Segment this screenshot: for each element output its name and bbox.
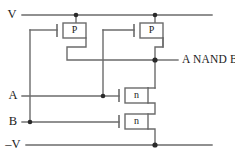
output-label: A NAND B <box>182 53 235 65</box>
junction-input-a-tap <box>101 94 106 99</box>
pmos-left-group: P <box>30 15 155 60</box>
input-b-label: B <box>9 114 17 128</box>
junction-vdd-left-tap <box>74 13 79 18</box>
pmos-right-label: P <box>149 24 155 35</box>
nmos-lower-source-wire <box>148 129 155 145</box>
output-net-group: A NAND B <box>155 53 235 88</box>
junction-input-b-tap <box>28 120 33 125</box>
input-a-label: A <box>8 88 17 102</box>
supply-negative-label: –V <box>4 137 20 151</box>
nmos-lower-group: n <box>30 114 155 145</box>
nmos-upper-source-wire <box>148 103 155 114</box>
nmos-upper-group: n <box>103 88 155 114</box>
pmos-left-drain-wire <box>67 38 155 60</box>
junction-vdd-right-tap <box>153 13 158 18</box>
nand-gate-schematic: V P P <box>0 0 235 161</box>
gate-feed-group <box>30 30 103 122</box>
pmos-left-label: P <box>72 24 78 35</box>
nmos-upper-label: n <box>134 89 139 100</box>
supply-positive-rail-group: V <box>7 7 212 21</box>
supply-positive-label: V <box>7 7 16 21</box>
junction-vss-tap <box>152 142 157 147</box>
input-b-group: B <box>9 114 30 128</box>
pmos-right-drain-to-output <box>155 38 163 60</box>
junction-output-node <box>152 57 157 62</box>
schematic-canvas: V P P <box>0 0 235 161</box>
supply-negative-rail-group: –V <box>4 137 212 151</box>
input-a-group: A <box>8 88 103 102</box>
pmos-right-group: P <box>103 15 163 60</box>
nmos-lower-label: n <box>134 115 139 126</box>
